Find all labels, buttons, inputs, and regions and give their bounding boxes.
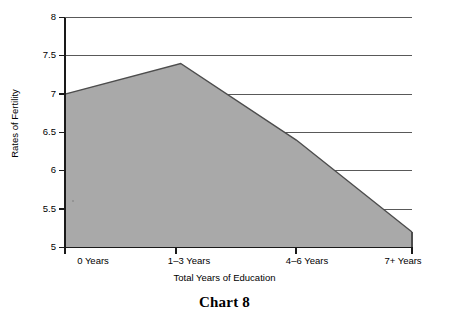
y-axis-title: Rates of Fertility	[9, 64, 20, 184]
xtick-label-7plus-years: 7+ Years	[384, 255, 421, 266]
ytick-label-7: 7	[30, 89, 56, 99]
xtick-label-1-3-years: 1–3 Years	[168, 255, 210, 266]
ytick-label-8: 8	[30, 12, 56, 22]
plot-area: 8 7.5 7 6.5 6 5.5 5 0 Years 1–3 Years 4–…	[0, 0, 449, 265]
ytick-label-6: 6	[30, 165, 56, 175]
xtick-label-4-6-years: 4–6 Years	[286, 255, 328, 266]
ytick-label-6p5: 6.5	[30, 127, 56, 137]
ytick-label-5: 5	[30, 242, 56, 252]
ytick-label-7p5: 7.5	[30, 50, 56, 60]
xtick-label-0-years: 0 Years	[77, 255, 109, 266]
ytick-label-5p5: 5.5	[30, 204, 56, 214]
x-axis-title: Total Years of Education	[0, 272, 449, 283]
chart-figure: 8 7.5 7 6.5 6 5.5 5 0 Years 1–3 Years 4–…	[0, 0, 449, 321]
figure-caption: Chart 8	[0, 294, 449, 311]
area-series-rates-of-fertility	[65, 63, 412, 247]
scan-speck	[72, 200, 74, 202]
x-axis-ticks	[65, 247, 412, 253]
y-axis-ticks	[59, 18, 65, 248]
chart-svg	[0, 0, 449, 265]
